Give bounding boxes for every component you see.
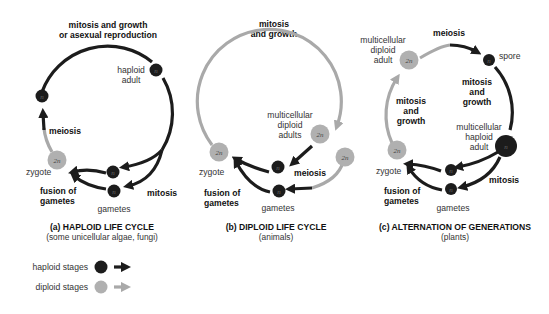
panel-diploid-life-cycle: mitosis and growth 2n 2n 2n n n [197, 19, 354, 242]
cell-diploid-adult-2: 2n [336, 148, 355, 167]
cell-gamete-1: n [107, 166, 120, 179]
cell-gamete-2: n [273, 185, 286, 198]
svg-text:2n: 2n [54, 157, 62, 165]
label-meiosis: meiosis [433, 28, 465, 38]
cell-zygote: 2n [210, 143, 229, 162]
label-left-and: and [403, 106, 418, 116]
label-top-line1: mitosis and growth [69, 20, 148, 30]
svg-text:n: n [504, 143, 508, 151]
arrow-fusion-2 [74, 176, 106, 189]
label-spore: spore [499, 51, 521, 61]
label-diploid: diploid [278, 120, 303, 130]
legend-haploid-label: haploid stages [33, 262, 88, 272]
panel-b-subtitle: (animals) [259, 232, 294, 242]
svg-text:n: n [487, 57, 491, 65]
arc-right [162, 78, 172, 150]
cell-diploid-adult-1: 2n [311, 125, 330, 144]
label-mitosis: mitosis [489, 175, 519, 185]
label-fusion-2: gametes [204, 198, 239, 208]
svg-text:n: n [154, 67, 158, 75]
label-multicellular: multicellular [267, 110, 313, 120]
svg-text:n: n [112, 188, 116, 196]
life-cycles-diagram: mitosis and growth or asexual reproducti… [0, 0, 549, 314]
cell-haploid-adult: n [150, 64, 163, 77]
svg-text:2n: 2n [216, 149, 224, 157]
panel-haploid-life-cycle: mitosis and growth or asexual reproducti… [26, 20, 177, 242]
label-haploid: haploid [465, 132, 493, 142]
label-haploid-adult: adult [470, 142, 489, 152]
cell-haploid-adult: n [495, 135, 517, 157]
panel-a-subtitle: (some unicellular algae, fungi) [46, 232, 158, 242]
label-fusion-1: fusion of [384, 186, 420, 196]
arrow-meiosis [450, 45, 477, 52]
label-left-mitosis: mitosis [396, 96, 426, 106]
arrow-meiosis-1 [293, 146, 312, 163]
cell-spore: n [483, 54, 495, 66]
legend-haploid-circle-icon [95, 261, 108, 274]
panel-c-subtitle: (plants) [441, 232, 469, 242]
arc-meiosis-grey [420, 45, 450, 58]
panel-alternation-of-generations: 2n n n 2n n n multicellular diploid adul… [360, 28, 531, 242]
svg-text:n: n [40, 93, 44, 101]
cell-gamete-1: n [272, 161, 285, 174]
label-right-and: and [469, 87, 484, 97]
label-haploid: haploid [117, 65, 145, 75]
label-top-line2: or asexual reproduction [59, 30, 157, 40]
svg-text:n: n [277, 188, 281, 196]
legend-diploid-label: diploid stages [35, 282, 88, 292]
panel-a-title: (a) HAPLOID LIFE CYCLE [50, 222, 154, 232]
cell-gamete-2: n [445, 183, 457, 195]
arrow-meiosis-2 [290, 188, 312, 189]
label-right-growth: growth [463, 97, 492, 107]
legend: haploid stages diploid stages [33, 261, 126, 294]
svg-text:n: n [276, 164, 280, 172]
label-gametes: gametes [98, 204, 131, 214]
label-meiosis: meiosis [294, 168, 326, 178]
svg-text:n: n [111, 169, 115, 177]
label-diploid: diploid [371, 45, 396, 55]
arrow-meiosis [43, 113, 44, 130]
arrow-fusion-1 [73, 170, 106, 173]
label-fusion-1: fusion of [204, 188, 240, 198]
label-gametes: gametes [437, 203, 470, 213]
svg-text:n: n [449, 167, 453, 175]
svg-text:2n: 2n [394, 147, 402, 155]
label-gametes: gametes [262, 203, 295, 213]
svg-text:2n: 2n [342, 154, 350, 162]
cell-post-meiosis: n [36, 90, 49, 103]
label-mitosis: mitosis [147, 188, 177, 198]
cell-diploid-adult: 2n [400, 51, 419, 70]
label-top-line1: mitosis [259, 19, 289, 29]
label-fusion-1: fusion of [40, 186, 76, 196]
panel-b-title: (b) DIPLOID LIFE CYCLE [226, 222, 327, 232]
arrow-mitosis-1 [458, 152, 498, 167]
label-fusion-2: gametes [40, 196, 75, 206]
label-zygote: zygote [199, 167, 225, 177]
arc-right-mitosis-growth [495, 67, 512, 130]
label-multicellular-haploid: multicellular [456, 122, 502, 132]
arrow-fusion-1 [408, 164, 441, 171]
label-zygote: zygote [376, 166, 402, 176]
panel-c-title: (c) ALTERNATION OF GENERATIONS [379, 222, 531, 232]
label-adult: adult [374, 55, 393, 65]
cell-gamete-1: n [445, 164, 457, 176]
svg-text:n: n [449, 186, 453, 194]
label-adult: adult [122, 75, 141, 85]
legend-diploid-circle-icon [95, 281, 108, 294]
label-adults: adults [279, 130, 302, 140]
svg-text:2n: 2n [317, 131, 325, 139]
label-meiosis: meiosis [49, 126, 81, 136]
label-zygote: zygote [26, 167, 52, 177]
label-left-growth: growth [397, 116, 426, 126]
cell-zygote: 2n [388, 141, 407, 160]
label-multicellular: multicellular [360, 35, 406, 45]
svg-text:2n: 2n [406, 57, 414, 65]
cell-gamete-2: n [108, 185, 121, 198]
arc-left-mitosis-growth [386, 78, 397, 143]
label-right-mitosis: mitosis [462, 77, 492, 87]
label-fusion-2: gametes [384, 196, 419, 206]
